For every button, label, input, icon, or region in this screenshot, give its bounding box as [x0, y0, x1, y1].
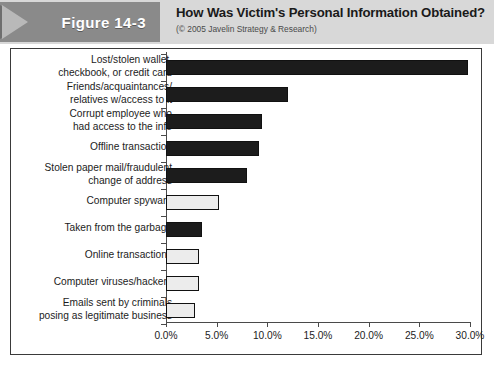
figure-root: Figure 14-3 How Was Victim's Personal In…: [0, 0, 494, 371]
badge-arrow-icon: [2, 5, 28, 39]
figure-header-band: Figure 14-3 How Was Victim's Personal In…: [0, 0, 494, 44]
figure-subtitle: (© 2005 Javelin Strategy & Research): [176, 24, 488, 34]
chart-frame: [10, 48, 482, 355]
figure-heading-block: How Was Victim's Personal Information Ob…: [176, 5, 488, 34]
figure-number-label: Figure 14-3: [62, 14, 160, 31]
figure-title: How Was Victim's Personal Information Ob…: [176, 5, 488, 21]
figure-number-badge: Figure 14-3: [0, 2, 160, 42]
